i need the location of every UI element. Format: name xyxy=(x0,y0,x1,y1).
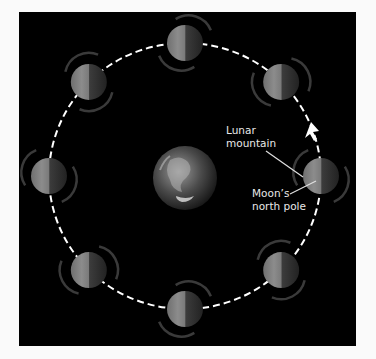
label-line: north pole xyxy=(252,200,306,212)
moon-disc xyxy=(263,252,299,288)
moon-orbit-diagram: Lunar mountain Moon’s north pole xyxy=(0,0,376,359)
label-north-pole: Moon’s north pole xyxy=(252,187,306,212)
moon xyxy=(286,148,356,205)
label-lunar-mountain: Lunar mountain xyxy=(226,124,276,149)
lunar-mountain-leader xyxy=(266,151,303,177)
direction-arrow xyxy=(305,122,319,141)
moon-disc xyxy=(167,25,203,61)
moon xyxy=(157,274,214,344)
moon-disc xyxy=(263,64,299,100)
moon xyxy=(14,148,84,205)
moon-disc xyxy=(303,158,339,194)
moon xyxy=(157,8,214,78)
moon-disc xyxy=(167,291,203,327)
moon-disc xyxy=(71,64,107,100)
earth xyxy=(153,146,217,210)
moon-disc xyxy=(71,252,107,288)
label-line: Lunar xyxy=(226,124,256,136)
moon-disc xyxy=(31,158,67,194)
label-line: Moon’s xyxy=(252,187,289,199)
moon xyxy=(254,238,308,302)
label-line: mountain xyxy=(226,137,276,149)
